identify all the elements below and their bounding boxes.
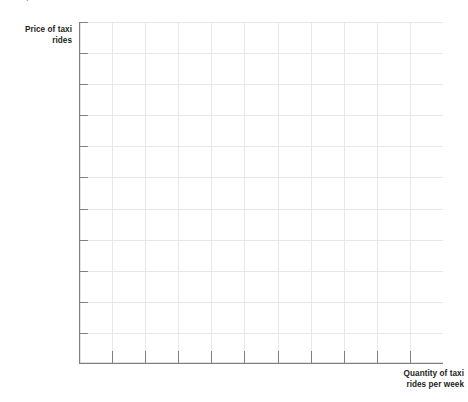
clipped-caption-strip: . bbox=[0, 0, 468, 7]
x-axis-label-line-2: rides per week bbox=[330, 380, 464, 391]
y-axis-label-line-1: Price of taxi bbox=[0, 25, 72, 36]
horizontal-gridlines bbox=[79, 23, 443, 334]
plot-area bbox=[79, 22, 443, 364]
clipped-caption-text: . bbox=[26, 0, 29, 3]
vertical-gridlines bbox=[113, 22, 444, 364]
y-axis-label: Price of taxi rides bbox=[0, 25, 72, 46]
grid-svg bbox=[79, 22, 443, 364]
y-axis-label-line-2: rides bbox=[0, 36, 72, 47]
x-axis-label-line-1: Quantity of taxi bbox=[330, 369, 464, 380]
y-axis-tick-marks bbox=[80, 23, 89, 365]
x-axis-label: Quantity of taxi rides per week bbox=[330, 369, 464, 390]
x-axis-tick-marks bbox=[80, 351, 444, 364]
graph-figure: . Price of taxi rides Quantity of taxi r… bbox=[0, 0, 468, 402]
